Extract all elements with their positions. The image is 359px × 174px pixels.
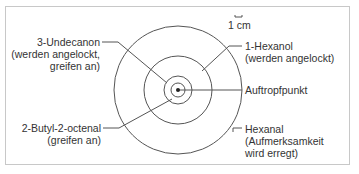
ring-note: (werden angelockt, — [8, 48, 100, 60]
ring-name: 3-Undecanon — [8, 36, 100, 48]
label-2-butyl-2-octenal: 2-Butyl-2-octenal (greifen an) — [8, 122, 101, 146]
scale-label: 1 cm — [228, 19, 251, 31]
label-1-hexanol: 1-Hexanol (werden angelockt) — [245, 40, 334, 64]
scale-bar — [235, 15, 242, 17]
ring-note: (werden angelockt) — [245, 52, 334, 64]
leader-1-hexanol — [202, 46, 242, 71]
ring-name: 1-Hexanol — [245, 40, 334, 52]
leader-hexanal — [233, 128, 242, 132]
label-hexanal: Hexanal (Aufmerksamkeit wird erregt) — [245, 123, 324, 159]
ring-name: 2-Butyl-2-octenal — [8, 122, 101, 134]
label-auftropfpunkt: Auftropfpunkt — [245, 84, 307, 96]
leader-2-butyl-2-octenal — [103, 99, 172, 128]
ring-note: greifen an) — [8, 60, 100, 72]
ring-note: (greifen an) — [8, 134, 101, 146]
ring-note: wird erregt) — [245, 147, 324, 159]
ring-note: (Aufmerksamkeit — [245, 135, 324, 147]
center-dot — [176, 88, 180, 92]
ring-name: Hexanal — [245, 123, 324, 135]
label-3-undecanon: 3-Undecanon (werden angelockt, greifen a… — [8, 36, 100, 72]
